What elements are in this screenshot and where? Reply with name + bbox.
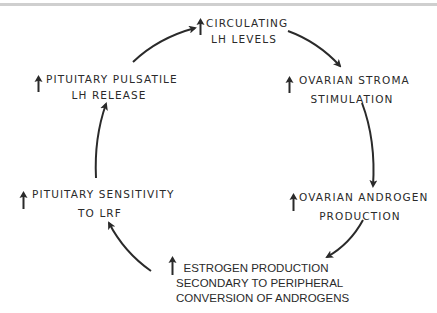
up-arrow-icon [34, 75, 43, 92]
up-arrow-icon [285, 76, 294, 93]
arrow-estrogen-to-sensitivity [109, 223, 151, 271]
node-ovarian-stroma: OVARIAN STROMA STIMULATION [299, 71, 405, 109]
node-circulating-lh: CIRCULATING LH LEVELS [206, 15, 282, 47]
node-label-line: LH RELEASE [46, 87, 172, 103]
node-label-line: LH LEVELS [206, 31, 282, 47]
node-pituitary-pulsatile: PITUITARY PULSATILE LH RELEASE [46, 71, 172, 103]
node-label-line: PITUITARY PULSATILE [46, 71, 172, 87]
arrow-stroma-to-androgen [362, 103, 374, 186]
node-pituitary-sensitivity: PITUITARY SENSITIVITY TO LRF [32, 185, 168, 223]
node-label-line: ESTROGEN PRODUCTION [176, 261, 336, 276]
node-ovarian-androgen: OVARIAN ANDROGEN PRODUCTION [299, 188, 421, 226]
up-arrow-icon [289, 193, 298, 211]
node-label-line: PITUITARY SENSITIVITY [32, 185, 168, 204]
node-label-line: TO LRF [32, 204, 168, 223]
arrow-pulsatile-to-circulating [133, 28, 195, 62]
node-label-line: PRODUCTION [299, 207, 421, 226]
node-label-line: SECONDARY TO PERIPHERAL [176, 276, 336, 291]
node-label-line: OVARIAN ANDROGEN [299, 188, 421, 207]
arrow-sensitivity-to-pulsatile [96, 104, 106, 178]
arrow-circulating-to-stroma [288, 31, 340, 66]
node-label-line: OVARIAN STROMA [299, 71, 405, 90]
node-label-line: CONVERSION OF ANDROGENS [176, 291, 336, 306]
up-arrow-icon [196, 18, 205, 35]
up-arrow-icon [19, 191, 28, 209]
node-label-line: STIMULATION [299, 90, 405, 109]
node-estrogen-production: ESTROGEN PRODUCTION SECONDARY TO PERIPHE… [176, 261, 336, 306]
node-label-line: CIRCULATING [206, 15, 282, 31]
